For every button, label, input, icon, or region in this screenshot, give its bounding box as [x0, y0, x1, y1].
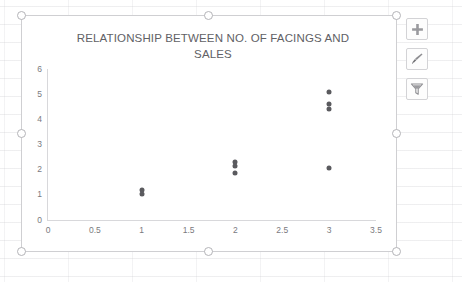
selection-handle-middle-right[interactable] — [392, 129, 401, 138]
selection-handle-top-right[interactable] — [392, 11, 401, 20]
selection-handle-bottom-right[interactable] — [392, 247, 401, 256]
scatter-point[interactable] — [327, 102, 332, 107]
x-axis-tick-label: 0 — [46, 226, 51, 235]
selection-handle-top-left[interactable] — [17, 11, 26, 20]
chart-styles-button[interactable] — [406, 48, 428, 70]
scatter-point[interactable] — [233, 171, 238, 176]
y-axis-tick-label: 6 — [37, 65, 42, 74]
scatter-point[interactable] — [139, 187, 144, 192]
y-axis-tick-label: 3 — [37, 140, 42, 149]
selection-handle-top-center[interactable] — [204, 11, 213, 20]
x-axis-tick-label: 1 — [139, 226, 144, 235]
scatter-point[interactable] — [233, 160, 238, 165]
scatter-point[interactable] — [327, 166, 332, 171]
scatter-point[interactable] — [327, 89, 332, 94]
y-axis-tick-label: 5 — [37, 90, 42, 99]
x-axis-tick-label: 3.5 — [370, 226, 382, 235]
x-axis-tick-label: 3 — [327, 226, 332, 235]
plus-icon — [411, 23, 424, 36]
x-axis-tick-label: 0.5 — [89, 226, 101, 235]
y-axis-tick-label: 1 — [37, 191, 42, 200]
selection-handle-middle-left[interactable] — [17, 129, 26, 138]
y-axis-tick-label: 2 — [37, 165, 42, 174]
y-axis-tick-label: 4 — [37, 115, 42, 124]
chart-filters-button[interactable] — [406, 78, 428, 100]
chart-side-buttons — [406, 18, 428, 108]
x-axis-tick-label: 1.5 — [183, 226, 195, 235]
chart-elements-button[interactable] — [406, 18, 428, 40]
selection-handle-bottom-center[interactable] — [204, 247, 213, 256]
x-axis-tick-label: 2.5 — [276, 226, 288, 235]
scatter-point[interactable] — [327, 107, 332, 112]
data-series-layer — [48, 69, 376, 220]
funnel-icon — [410, 82, 424, 96]
y-axis-tick-label: 0 — [37, 216, 42, 225]
chart-title[interactable]: RELATIONSHIP BETWEEN NO. OF FACINGS AND … — [40, 30, 386, 62]
x-axis-tick-label: 2 — [233, 226, 238, 235]
selection-handle-bottom-left[interactable] — [17, 247, 26, 256]
chart-object[interactable]: RELATIONSHIP BETWEEN NO. OF FACINGS AND … — [21, 15, 397, 252]
plot-area[interactable]: 012345600.511.522.533.5 — [47, 69, 376, 221]
paintbrush-icon — [410, 52, 424, 66]
